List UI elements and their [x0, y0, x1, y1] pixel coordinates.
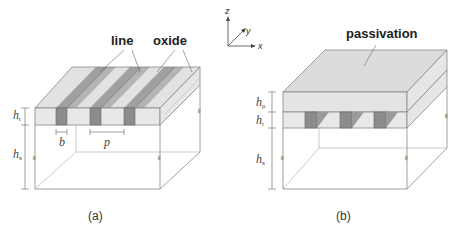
coordinate-axes: z y x [224, 6, 263, 51]
line-cross-section-3 [124, 108, 135, 125]
hs-sub-a: s [19, 155, 22, 161]
z-axis-label: z [224, 6, 230, 16]
substrate-a-bottom-left-depth [35, 152, 76, 189]
y-axis [228, 30, 244, 46]
line-b-cross-section-1 [305, 112, 317, 128]
passivation-front-face [283, 92, 407, 112]
break-symbol-b-left: ≈ [278, 155, 286, 161]
y-axis-label: y [245, 26, 251, 36]
substrate-a-back-edges [76, 125, 200, 152]
caption-a: (a) [88, 209, 103, 223]
break-symbol-b-front: ≈ [402, 155, 410, 161]
break-symbol-a-front: ≈ [155, 155, 163, 161]
dimension-markers-b [268, 92, 276, 189]
ht-sub-b: t [262, 121, 264, 127]
break-symbol-a-back: ≈ [195, 108, 203, 114]
panel-b: passivation h p h t h s ≈ ≈ ≈ (b) [256, 26, 450, 223]
break-symbol-b-back: ≈ [442, 113, 450, 119]
x-axis-label: x [257, 41, 263, 51]
oxide-label: oxide [153, 33, 187, 48]
b-label: b [59, 135, 65, 149]
line-label: line [111, 33, 133, 48]
line-cross-section-2 [90, 108, 101, 125]
hp-sub-b: p [262, 103, 266, 109]
substrate-b-bottom-right-depth [407, 148, 447, 189]
z-axis-arrowhead [226, 16, 230, 21]
substrate-b-front [283, 128, 407, 189]
substrate-a-bottom-right-depth [160, 152, 200, 189]
hs-sub-b: s [262, 160, 265, 166]
line-cross-section-1 [56, 108, 67, 125]
substrate-b-bottom-left-depth [283, 148, 319, 189]
x-axis-arrowhead [251, 44, 256, 48]
cross-section-figure: z y x [0, 0, 458, 237]
substrate-a-front [35, 125, 160, 189]
break-symbol-a-left: ≈ [30, 155, 38, 161]
panel-a: line oxide h t h s b p ≈ ≈ ≈ (a) [13, 33, 203, 223]
caption-b: (b) [336, 209, 351, 223]
substrate-b-back-edges [319, 128, 447, 148]
passivation-label: passivation [346, 26, 418, 41]
line-b-cross-section-3 [374, 112, 386, 128]
ht-sub-a: t [19, 116, 21, 122]
line-b-cross-section-2 [340, 112, 352, 128]
p-label: p [103, 135, 110, 149]
